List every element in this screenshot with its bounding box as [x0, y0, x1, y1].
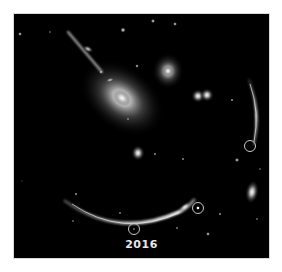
bottom-lensed-arc-core [72, 204, 179, 224]
double-galaxy-right [200, 88, 214, 102]
lower-galaxy [131, 145, 145, 161]
streak-knot [81, 43, 95, 54]
upper-galaxy-core [163, 66, 173, 76]
astronomy-image: 2016 [14, 14, 269, 258]
right-galaxy [243, 179, 261, 205]
galaxy-cluster-image [14, 14, 269, 258]
upper-left-streak [68, 32, 102, 72]
supernova-marker-right [245, 141, 256, 152]
year-caption: 2016 [14, 238, 269, 251]
